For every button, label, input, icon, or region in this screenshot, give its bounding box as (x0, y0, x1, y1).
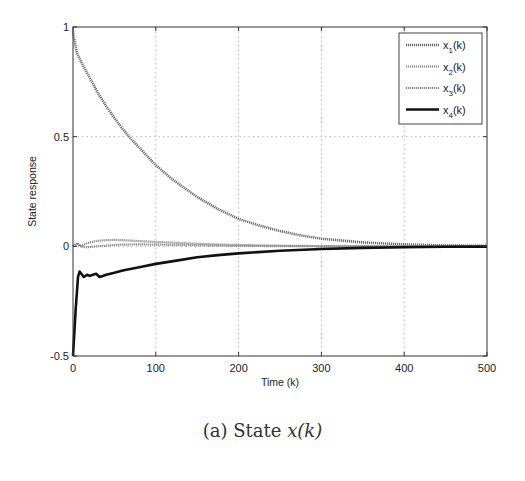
caption-prefix: (a) State (203, 420, 287, 441)
x-tick-label: 500 (478, 362, 496, 374)
x-tick-label: 400 (395, 362, 413, 374)
legend: x1(k)x2(k)x3(k)x4(k) (399, 33, 482, 124)
y-axis-label: State response (26, 156, 38, 227)
y-tick-label: 0.5 (54, 131, 69, 143)
x-tick-label: 300 (312, 362, 330, 374)
series-line-4 (73, 247, 487, 356)
caption-math: x(k) (287, 420, 322, 441)
y-tick-label: -0.5 (50, 350, 69, 362)
x-axis-label: Time (k) (261, 376, 299, 388)
state-response-chart: 0100200300400500-0.500.51 Time (k) State… (0, 0, 525, 420)
y-tick-label: 1 (63, 21, 69, 33)
x-tick-label: 100 (147, 362, 165, 374)
y-tick-label: 0 (63, 240, 69, 252)
figure-caption: (a) State x(k) (0, 420, 525, 441)
x-tick-label: 0 (70, 362, 76, 374)
x-tick-label: 200 (229, 362, 247, 374)
